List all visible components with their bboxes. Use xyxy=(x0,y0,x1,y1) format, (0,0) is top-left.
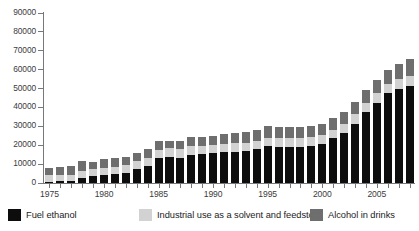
bar-1981 xyxy=(111,158,119,183)
bar-segment xyxy=(133,153,141,162)
bar-segment xyxy=(56,175,64,182)
bar-segment xyxy=(176,141,184,149)
x-axis-tick xyxy=(290,184,291,188)
bar-segment xyxy=(384,84,392,93)
bar-1998 xyxy=(296,127,304,183)
bar-1992 xyxy=(231,133,239,183)
bar-segment xyxy=(165,141,173,149)
bar-segment xyxy=(111,174,119,183)
bar-segment xyxy=(78,171,86,178)
x-axis-tick xyxy=(60,184,61,188)
y-axis-tick-label: 20000 xyxy=(0,140,36,149)
bar-segment xyxy=(100,159,108,167)
bar-segment xyxy=(285,147,293,183)
bar-segment xyxy=(220,134,228,144)
x-axis-tick xyxy=(388,184,389,188)
bar-segment xyxy=(395,64,403,79)
legend-item: Alcohol in drinks xyxy=(310,206,395,224)
bar-1986 xyxy=(165,141,173,184)
y-axis-tick-label: 60000 xyxy=(0,65,36,74)
legend-label: Alcohol in drinks xyxy=(328,210,395,221)
bar-segment xyxy=(45,175,53,182)
x-axis-tick xyxy=(137,184,138,188)
bar-segment xyxy=(187,137,195,146)
x-axis-tick-label: 2000 xyxy=(305,190,339,199)
bar-segment xyxy=(307,146,315,183)
bar-segment xyxy=(373,80,381,93)
bar-segment xyxy=(209,136,217,144)
bar-segment xyxy=(318,135,326,144)
x-axis-tick xyxy=(169,184,170,188)
bar-segment xyxy=(296,127,304,138)
x-axis-tick xyxy=(115,184,116,188)
bar-segment xyxy=(78,178,86,183)
bar-segment xyxy=(133,169,141,183)
bar-segment xyxy=(144,158,152,166)
x-axis-tick xyxy=(257,184,258,188)
x-axis-tick-label: 1990 xyxy=(196,190,230,199)
bar-segment xyxy=(242,132,250,142)
bar-1991 xyxy=(220,134,228,183)
bar-segment xyxy=(351,102,359,114)
x-axis-tick xyxy=(93,184,94,188)
bar-segment xyxy=(187,155,195,183)
y-axis-tick-label: 40000 xyxy=(0,102,36,111)
bar-1989 xyxy=(198,137,206,183)
bar-segment xyxy=(285,127,293,138)
bar-segment xyxy=(198,154,206,183)
legend-swatch-icon xyxy=(139,209,152,221)
bar-segment xyxy=(406,86,414,183)
bar-segment xyxy=(351,114,359,123)
bar-1980 xyxy=(100,159,108,183)
bar-segment xyxy=(220,152,228,183)
bar-1985 xyxy=(155,141,163,183)
bar-segment xyxy=(242,151,250,183)
bar-segment xyxy=(373,103,381,183)
x-axis-tick-label: 1985 xyxy=(142,190,176,199)
x-axis-tick xyxy=(355,184,356,188)
x-axis-tick xyxy=(322,184,323,188)
x-axis-tick-label: 1980 xyxy=(87,190,121,199)
x-axis-tick xyxy=(366,184,367,188)
bar-segment xyxy=(340,133,348,183)
bar-1990 xyxy=(209,136,217,183)
bar-1984 xyxy=(144,149,152,183)
bar-1983 xyxy=(133,153,141,183)
x-axis-line xyxy=(43,183,415,184)
legend-swatch-icon xyxy=(8,209,21,221)
x-axis-tick xyxy=(148,184,149,188)
bar-segment xyxy=(198,137,206,146)
bar-segment xyxy=(253,130,261,141)
bar-segment xyxy=(296,147,304,183)
bar-segment xyxy=(78,161,86,171)
bar-segment xyxy=(340,124,348,133)
bar-segment xyxy=(242,143,250,152)
bar-segment xyxy=(275,138,283,147)
bar-segment xyxy=(362,112,370,183)
x-axis-tick xyxy=(344,184,345,188)
bar-segment xyxy=(45,182,53,184)
x-axis-tick xyxy=(410,184,411,188)
bar-1979 xyxy=(89,162,97,183)
bar-segment xyxy=(67,166,75,174)
bar-segment xyxy=(220,144,228,153)
bar-segment xyxy=(296,138,304,147)
bar-segment xyxy=(340,112,348,124)
bar-segment xyxy=(165,157,173,183)
legend-swatch-icon xyxy=(310,209,323,221)
x-axis-tick xyxy=(202,184,203,188)
bar-1982 xyxy=(122,157,130,183)
bar-segment xyxy=(209,153,217,183)
bar-2004 xyxy=(362,90,370,183)
x-axis-tick xyxy=(159,184,160,188)
bar-1995 xyxy=(264,126,272,183)
x-axis-tick xyxy=(246,184,247,188)
x-axis-tick xyxy=(279,184,280,188)
bar-segment xyxy=(155,158,163,183)
legend-label: Fuel ethanol xyxy=(26,210,77,221)
plot-area xyxy=(44,13,415,183)
chart-legend: Fuel ethanolIndustrial use as a solvent … xyxy=(0,206,419,228)
y-axis-tick-label: 70000 xyxy=(0,46,36,55)
bar-2006 xyxy=(384,70,392,183)
x-axis-tick xyxy=(377,184,378,188)
